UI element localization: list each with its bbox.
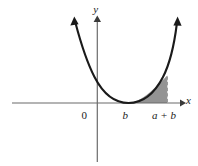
upper-bound-x-label: a + b [152,109,176,121]
y-axis-arrow-icon [94,16,101,23]
parabola-graph: y x 0 b a + b [0,0,198,166]
vertex-x-label: b [123,109,129,121]
y-axis-label: y [92,3,98,15]
curve-right-arrow-icon [173,17,181,26]
y-axis [94,16,101,163]
curve-left-arrow-icon [70,17,78,26]
figure-container: y x 0 b a + b [0,0,198,166]
origin-label: 0 [82,109,88,121]
x-axis-label: x [185,94,191,106]
